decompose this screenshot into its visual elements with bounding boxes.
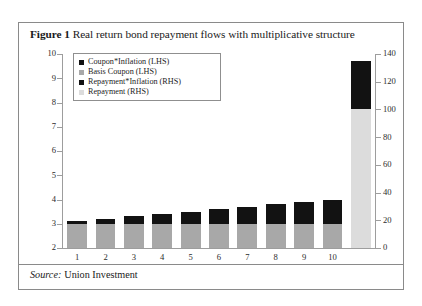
bar-segment-repayment	[351, 109, 371, 248]
chart-legend: Coupon*Inflation (LHS)Basis Coupon (LHS)…	[73, 53, 221, 101]
right-axis-tick-label: 40	[383, 188, 392, 197]
legend-item: Repayment (RHS)	[79, 87, 216, 97]
legend-item-label: Coupon*Inflation (LHS)	[88, 58, 169, 66]
left-axis-tick-label: 8	[52, 98, 56, 107]
x-axis-tick-label: 2	[92, 252, 120, 262]
bar-segment-repayment-inflation	[351, 61, 371, 110]
bar-column	[266, 54, 286, 248]
figure-title: Real return bond repayment flows with mu…	[73, 28, 355, 40]
right-axis-tick-label: 60	[383, 160, 392, 169]
bar-segment-coupon-inflation	[96, 219, 116, 224]
bar-segment-coupon-inflation	[209, 209, 229, 224]
right-axis-tick	[376, 220, 381, 221]
legend-item: Basis Coupon (LHS)	[79, 67, 216, 77]
right-axis-tick	[376, 54, 381, 55]
left-axis-tick-label: 7	[52, 122, 56, 131]
right-axis-tick-label: 100	[383, 105, 396, 114]
legend-item: Repayment*Inflation (RHS)	[79, 77, 216, 87]
bar-column	[351, 54, 371, 248]
left-axis-tick	[57, 200, 62, 201]
left-axis-tick	[57, 248, 62, 249]
left-axis-tick-label: 4	[52, 195, 56, 204]
bar-column	[294, 54, 314, 248]
x-axis-tick-label: 9	[290, 252, 318, 262]
left-axis-tick-label: 3	[52, 219, 56, 228]
legend-item-label: Basis Coupon (LHS)	[88, 68, 157, 76]
figure-number: Figure 1	[30, 28, 70, 40]
bar-segment-coupon-inflation	[294, 202, 314, 224]
right-axis-tick	[376, 109, 381, 110]
bar-column	[237, 54, 257, 248]
square-swatch-icon	[79, 90, 84, 95]
left-axis-line	[62, 54, 63, 249]
left-axis-tick-label: 5	[52, 171, 56, 180]
legend-item-label: Repayment (RHS)	[88, 88, 149, 96]
right-axis-tick-label: 80	[383, 133, 392, 142]
chart-plot-area: 2345678910 020406080100120140 1234567891…	[19, 49, 405, 264]
x-axis-line	[62, 248, 376, 249]
x-axis-tick-label: 1	[63, 252, 91, 262]
bar-segment-coupon-inflation	[266, 204, 286, 223]
right-axis-tick-label: 140	[383, 49, 396, 58]
bar-segment-basis-coupon	[237, 224, 257, 248]
x-axis-tick-label: 6	[205, 252, 233, 262]
bar-segment-coupon-inflation	[67, 221, 87, 223]
bar-segment-coupon-inflation	[152, 214, 172, 224]
left-axis-tick-label: 6	[52, 146, 56, 155]
x-axis-tick-label: 4	[148, 252, 176, 262]
left-axis-tick	[57, 224, 62, 225]
x-axis-tick-label: 3	[120, 252, 148, 262]
bar-segment-basis-coupon	[96, 224, 116, 248]
x-axis-tick-label: 7	[233, 252, 261, 262]
bar-segment-basis-coupon	[294, 224, 314, 248]
left-axis-tick	[57, 103, 62, 104]
square-swatch-icon	[79, 60, 84, 65]
right-axis-tick-label: 0	[383, 243, 387, 252]
legend-item: Coupon*Inflation (LHS)	[79, 57, 216, 67]
bar-segment-coupon-inflation	[124, 216, 144, 223]
square-swatch-icon	[79, 70, 84, 75]
left-axis-tick-label: 9	[52, 74, 56, 83]
right-axis-tick	[376, 165, 381, 166]
left-axis-tick	[57, 78, 62, 79]
bar-segment-basis-coupon	[124, 224, 144, 248]
right-axis-tick-label: 120	[383, 77, 396, 86]
bar-segment-basis-coupon	[181, 224, 201, 248]
bar-segment-basis-coupon	[152, 224, 172, 248]
bar-segment-basis-coupon	[209, 224, 229, 248]
x-axis-tick-label: 8	[262, 252, 290, 262]
figure-container: Figure 1 Real return bond repayment flow…	[18, 22, 404, 290]
right-axis-tick	[376, 82, 381, 83]
x-axis-tick-label: 5	[177, 252, 205, 262]
right-axis-tick	[376, 137, 381, 138]
bar-segment-coupon-inflation	[323, 200, 343, 224]
right-axis-tick	[376, 248, 381, 249]
right-axis-tick	[376, 193, 381, 194]
source-divider	[19, 264, 403, 265]
legend-item-label: Repayment*Inflation (RHS)	[88, 78, 181, 86]
square-swatch-icon	[79, 80, 84, 85]
left-axis-tick	[57, 127, 62, 128]
bar-segment-basis-coupon	[67, 224, 87, 248]
left-axis-tick-label: 2	[52, 243, 56, 252]
x-axis-tick-label: 10	[318, 252, 346, 262]
right-axis-tick-label: 20	[383, 216, 392, 225]
left-axis-tick	[57, 54, 62, 55]
bar-segment-basis-coupon	[323, 224, 343, 248]
figure-caption: Figure 1 Real return bond repayment flow…	[19, 23, 403, 49]
bar-segment-coupon-inflation	[237, 207, 257, 224]
source-value: Union Investment	[64, 269, 137, 280]
left-axis-tick	[57, 151, 62, 152]
left-axis-tick	[57, 175, 62, 176]
source-label: Source:	[30, 269, 61, 280]
bar-segment-coupon-inflation	[181, 212, 201, 224]
bar-segment-basis-coupon	[266, 224, 286, 248]
left-axis-tick-label: 10	[47, 49, 56, 58]
source-note: Source:Union Investment	[30, 269, 138, 280]
bar-column	[323, 54, 343, 248]
